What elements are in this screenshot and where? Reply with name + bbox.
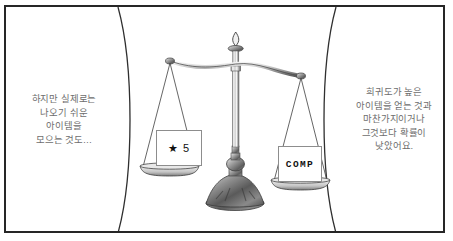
right-narration-line-4: 그것보다 확률이	[342, 126, 445, 140]
base-foot	[206, 174, 264, 207]
right-pan-item-label: COMP	[286, 159, 314, 170]
panel-frame: ★ 5 COMP 하지만 실제로는 나오기 쉬운 아이템을 모으는 것도… 희귀…	[4, 5, 445, 233]
pedestal-ring	[231, 153, 240, 160]
scale-column	[233, 69, 240, 147]
left-narration-line-2: 나오기 쉬운	[12, 106, 116, 120]
left-narration-line-3: 아이템을	[12, 119, 116, 133]
left-pan-item-label: ★ 5	[168, 142, 190, 155]
right-pan-item-card: COMP	[278, 146, 322, 182]
left-pan-item-card: ★ 5	[156, 130, 202, 166]
right-narration-line-5: 낮았어요.	[342, 139, 445, 153]
left-divider-curve	[118, 7, 130, 233]
left-narration-text: 하지만 실제로는 나오기 쉬운 아이템을 모으는 것도…	[12, 92, 116, 146]
left-narration-line-1: 하지만 실제로는	[12, 92, 116, 106]
right-narration-line-1: 희귀도가 높은	[342, 85, 445, 99]
right-narration-line-2: 아이템을 얻는 것과	[342, 99, 445, 113]
right-divider-curve	[324, 7, 336, 233]
right-narration-line-3: 마찬가지이거나	[342, 112, 445, 126]
right-narration-text: 희귀도가 높은 아이템을 얻는 것과 마찬가지이거나 그것보다 확률이 낮았어요…	[342, 85, 445, 153]
left-narration-line-4: 모으는 것도…	[12, 133, 116, 147]
comic-strip-panel: ★ 5 COMP 하지만 실제로는 나오기 쉬운 아이템을 모으는 것도… 희귀…	[0, 0, 453, 241]
finial-flame	[233, 32, 239, 46]
scale-illustration	[140, 32, 330, 211]
finial-collar	[228, 46, 243, 52]
